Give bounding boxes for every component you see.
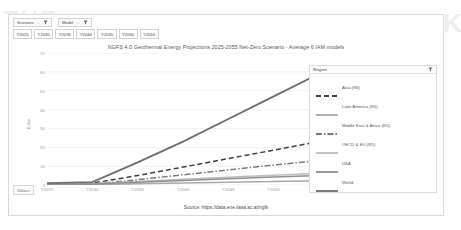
y-tick-10: 10 [40, 164, 45, 169]
y-tick-20: 20 [40, 145, 45, 150]
slicer-row: Scenario ... Model ... [13, 18, 92, 27]
legend-item[interactable]: USA [316, 154, 433, 173]
y-tick-70: 70 [40, 51, 45, 56]
legend-swatch [316, 85, 338, 91]
y-tick-60: 60 [40, 69, 45, 74]
x-tick-Y2030: Y2030 [86, 187, 99, 192]
y-tick-50: 50 [40, 88, 45, 93]
legend-panel: Region Asia (R6)Latin America (R6)Middle… [309, 65, 437, 193]
year-button-2055[interactable]: Y2055 [140, 29, 159, 39]
year-button-2025[interactable]: Y2025 [13, 29, 32, 39]
legend-items: Asia (R6)Latin America (R6)Middle East &… [310, 74, 436, 192]
legend-swatch [316, 180, 338, 186]
year-button-2045[interactable]: Y2045 [97, 29, 116, 39]
legend-swatch [316, 104, 338, 110]
legend-label: Latin America (R6) [342, 104, 378, 109]
legend-swatch [316, 123, 338, 129]
legend-item[interactable]: Asia (R6) [316, 78, 433, 97]
plot-area: EJ/yr 010203040506070 Y2025Y2030Y2035Y20… [21, 53, 321, 195]
legend-item[interactable]: OECD & EU (R5) [316, 135, 433, 154]
year-button-2040[interactable]: Y2040 [76, 29, 95, 39]
year-button-2030[interactable]: Y2030 [34, 29, 53, 39]
x-tick-Y2025: Y2025 [41, 187, 54, 192]
x-tick-Y2035: Y2035 [131, 187, 144, 192]
x-tick-Y2040: Y2040 [177, 187, 190, 192]
legend-label: OECD & EU (R5) [342, 142, 375, 147]
legend-title: Region [313, 67, 327, 72]
chart-title: NGFS 4.0 Geothermal Energy Projections 2… [9, 44, 443, 50]
legend-swatch [316, 161, 338, 167]
slicer-model[interactable]: Model ... [58, 18, 92, 27]
y-tick-40: 40 [40, 107, 45, 112]
ellipsis-icon: ... [76, 20, 79, 26]
legend-item[interactable]: Latin America (R6) [316, 97, 433, 116]
filter-icon[interactable] [83, 20, 88, 25]
slicer-scenario-label: Scenario [17, 20, 34, 26]
legend-swatch [316, 142, 338, 148]
ellipsis-icon: ... [37, 20, 40, 26]
y-tick-30: 30 [40, 126, 45, 131]
slicer-model-label: Model [62, 20, 73, 26]
year-button-2035[interactable]: Y2035 [55, 29, 74, 39]
x-tick-Y2045: Y2045 [222, 187, 235, 192]
y-axis-ticks: 010203040506070 [29, 53, 45, 185]
legend-label: World [342, 180, 353, 185]
year-button-2050[interactable]: Y2050 [119, 29, 138, 39]
legend-label: Asia (R6) [342, 85, 360, 90]
slicer-scenario[interactable]: Scenario ... [13, 18, 52, 27]
chart-lines [47, 53, 319, 185]
x-tick-Y2050: Y2050 [267, 187, 280, 192]
legend-item[interactable]: World [316, 173, 433, 192]
x-axis-ticks: Y2025Y2030Y2035Y2040Y2045Y2050Y2055 [47, 187, 319, 197]
chart-panel: Scenario ... Model ... Y2025 Y2030 Y2035… [8, 14, 444, 216]
legend-label: Middle East & Africa (R5) [342, 123, 390, 128]
legend-item[interactable]: Middle East & Africa (R5) [316, 116, 433, 135]
filter-icon[interactable] [43, 20, 48, 25]
values-button[interactable]: Values [13, 185, 34, 195]
legend-label: USA [342, 161, 351, 166]
filter-icon[interactable] [428, 67, 433, 72]
source-caption: Source: https://data.ene.iiasa.ac.at/ngf… [9, 205, 443, 210]
series-line [47, 142, 319, 185]
legend-header: Region [310, 66, 436, 74]
year-slicer-buttons: Y2025 Y2030 Y2035 Y2040 Y2045 Y2050 Y205… [13, 29, 159, 39]
